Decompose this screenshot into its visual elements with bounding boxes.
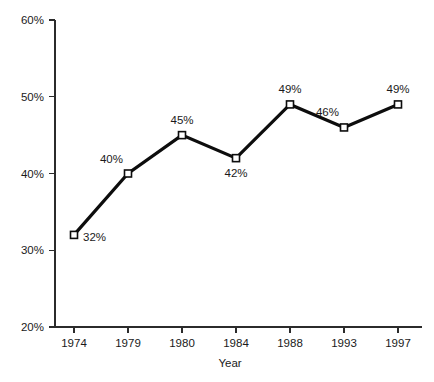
- x-axis-tick-label: 1997: [385, 337, 411, 349]
- data-point-marker: [341, 124, 348, 131]
- data-point-label: 45%: [170, 114, 193, 126]
- data-point-label: 42%: [224, 167, 247, 179]
- data-point-label: 40%: [100, 153, 123, 165]
- x-axis-tick-label: 1979: [115, 337, 141, 349]
- data-point-label: 49%: [386, 83, 409, 95]
- data-point-label: 46%: [316, 106, 339, 118]
- y-axis-tick-label: 40%: [21, 168, 44, 180]
- data-point-marker: [179, 132, 186, 139]
- data-point-marker: [287, 101, 294, 108]
- y-axis-tick-label: 30%: [21, 244, 44, 256]
- data-point-marker: [395, 101, 402, 108]
- x-axis-tick-label: 1980: [169, 337, 195, 349]
- x-axis-tick-label: 1988: [277, 337, 303, 349]
- line-chart: 20%30%40%50%60% 197419791980198419881993…: [0, 0, 434, 382]
- x-axis-title: Year: [218, 357, 241, 369]
- chart-container: 20%30%40%50%60% 197419791980198419881993…: [0, 0, 434, 382]
- data-point-marker: [71, 231, 78, 238]
- x-axis-tick-label: 1974: [61, 337, 87, 349]
- y-axis-tick-label: 20%: [21, 321, 44, 333]
- x-axis-tick-label: 1993: [331, 337, 357, 349]
- y-axis-tick-label: 50%: [21, 91, 44, 103]
- data-point-label: 49%: [278, 83, 301, 95]
- data-point-label: 32%: [83, 231, 106, 243]
- chart-background: [0, 0, 434, 382]
- data-point-marker: [125, 170, 132, 177]
- data-point-marker: [233, 155, 240, 162]
- y-axis-tick-label: 60%: [21, 14, 44, 26]
- x-axis-tick-label: 1984: [223, 337, 249, 349]
